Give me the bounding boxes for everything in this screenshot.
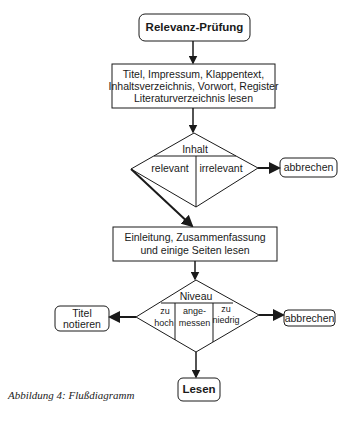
abort1-label: abbrechen — [280, 161, 337, 173]
step1-line1: Titel, Impressum, Klappentext, — [112, 68, 275, 80]
decision2-opt1-line2: hoch — [153, 318, 175, 328]
start-label: Relevanz-Prüfung — [139, 21, 250, 33]
step2-line2: und einige Seiten lesen — [113, 244, 277, 256]
decision1-option-irrelevant: irrelevant — [197, 162, 245, 174]
decision2-opt1-line1: zu — [154, 306, 176, 316]
figure-caption: Abbildung 4: Flußdiagramm — [8, 389, 135, 401]
abort2-label: abbrechen — [284, 312, 335, 324]
decision2-title: Niveau — [170, 290, 222, 302]
note-title-line2: notieren — [55, 318, 109, 330]
decision2-opt2-line1: ange- — [176, 306, 213, 316]
step1-line2: Inhaltsverzeichnis, Vorwort, Register — [108, 80, 279, 92]
step1-line3: Literaturverzeichnis lesen — [112, 92, 275, 104]
decision2-opt2-line2: messen — [176, 318, 213, 328]
step2-line1: Einleitung, Zusammenfassung — [113, 231, 277, 243]
decision1-title: Inhalt — [170, 143, 220, 155]
decision1-option-relevant: relevant — [145, 162, 195, 174]
flowchart-canvas — [0, 0, 355, 434]
decision2-opt3-line1: zu — [213, 304, 239, 314]
decision2-opt3-line2: niedrig — [212, 315, 240, 325]
end-label: Lesen — [178, 383, 220, 395]
